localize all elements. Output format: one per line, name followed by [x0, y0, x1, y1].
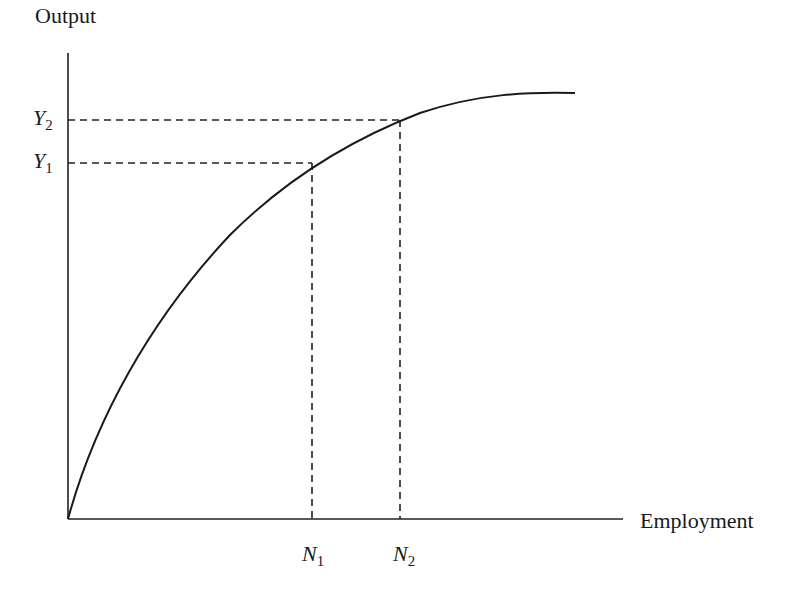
production-curve	[68, 93, 575, 519]
y1-tick-label: Y1	[33, 150, 53, 176]
n2-tick-label: N2	[393, 543, 415, 569]
y-axis-label: Output	[35, 5, 96, 27]
y2-tick-label: Y2	[33, 107, 53, 133]
x-axis-label: Employment	[640, 510, 754, 532]
chart-canvas	[0, 0, 809, 593]
n1-tick-label: N1	[302, 543, 324, 569]
